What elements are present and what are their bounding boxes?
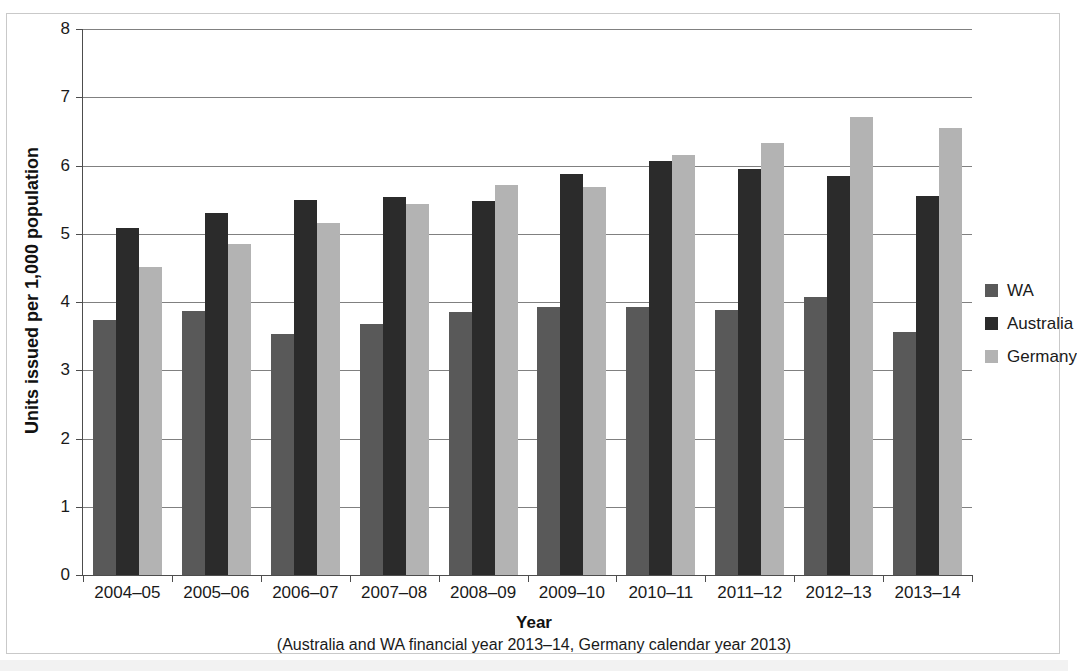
bar-australia-2013-14[interactable] [916,196,939,575]
x-axis-tick [616,575,617,582]
page-edge-shading [0,660,1068,671]
bar-group [271,29,340,575]
bar-group [182,29,251,575]
y-axis-tick [76,575,83,576]
bar-wa-2011-12[interactable] [715,310,738,575]
bar-wa-2007-08[interactable] [360,324,383,575]
x-axis-tick [261,575,262,582]
bar-australia-2004-05[interactable] [116,228,139,575]
bar-australia-2010-11[interactable] [649,161,672,575]
bar-wa-2009-10[interactable] [537,307,560,575]
bar-group [537,29,606,575]
bar-group [360,29,429,575]
legend-item-label: Australia [1007,315,1073,332]
y-axis-tick [76,370,83,371]
bar-germany-2006-07[interactable] [317,223,340,575]
bar-germany-2009-10[interactable] [583,187,606,575]
x-axis-tick [528,575,529,582]
x-axis-tick [794,575,795,582]
y-axis-tick [76,302,83,303]
x-axis-label: Year [0,613,1068,633]
legend-item-label: WA [1007,282,1034,299]
legend-item-australia[interactable]: Australia [985,307,1075,340]
bar-germany-2004-05[interactable] [139,267,162,575]
legend-item-label: Germany [1007,348,1077,365]
y-axis-tick [76,439,83,440]
bar-germany-2010-11[interactable] [672,155,695,575]
bar-australia-2009-10[interactable] [560,174,583,575]
legend: WAAustraliaGermany [985,274,1075,373]
bar-wa-2013-14[interactable] [893,332,916,575]
bar-germany-2007-08[interactable] [406,204,429,575]
y-axis-tick [76,507,83,508]
bar-germany-2005-06[interactable] [228,244,251,575]
y-axis-tick [76,166,83,167]
legend-swatch-icon [985,317,998,330]
bar-germany-2013-14[interactable] [939,128,962,575]
y-axis-tick-label: 8 [30,20,70,37]
legend-item-wa[interactable]: WA [985,274,1075,307]
bar-group [804,29,873,575]
bar-wa-2008-09[interactable] [449,312,472,575]
bar-australia-2008-09[interactable] [472,201,495,575]
legend-swatch-icon [985,284,998,297]
bar-germany-2008-09[interactable] [495,185,518,575]
bar-australia-2005-06[interactable] [205,213,228,575]
bar-australia-2012-13[interactable] [827,176,850,575]
bar-germany-2011-12[interactable] [761,143,784,575]
y-axis-label: Units issued per 1,000 population [22,41,43,541]
y-axis-tick [76,97,83,98]
y-axis-tick [76,234,83,235]
bar-australia-2006-07[interactable] [294,200,317,575]
x-axis-tick-label: 2013–14 [868,584,988,601]
bar-wa-2004-05[interactable] [93,320,116,575]
x-axis-tick [350,575,351,582]
x-axis-tick [172,575,173,582]
x-axis-tick [883,575,884,582]
bar-group [893,29,962,575]
bar-wa-2006-07[interactable] [271,334,294,575]
bar-group [449,29,518,575]
x-axis-tick [439,575,440,582]
bar-group [93,29,162,575]
bar-group [715,29,784,575]
x-axis-note: (Australia and WA financial year 2013–14… [0,636,1068,654]
x-axis-tick [705,575,706,582]
bar-group [626,29,695,575]
bar-australia-2011-12[interactable] [738,169,761,575]
y-axis-tick [76,29,83,30]
legend-swatch-icon [985,350,998,363]
x-axis-tick [972,575,973,582]
x-axis-tick [83,575,84,582]
y-axis-tick-label: 0 [30,566,70,583]
legend-item-germany[interactable]: Germany [985,340,1075,373]
bar-wa-2010-11[interactable] [626,307,649,575]
bar-germany-2012-13[interactable] [850,117,873,575]
bar-australia-2007-08[interactable] [383,197,406,575]
plot-area [83,29,972,575]
bar-wa-2005-06[interactable] [182,311,205,575]
bar-wa-2012-13[interactable] [804,297,827,575]
